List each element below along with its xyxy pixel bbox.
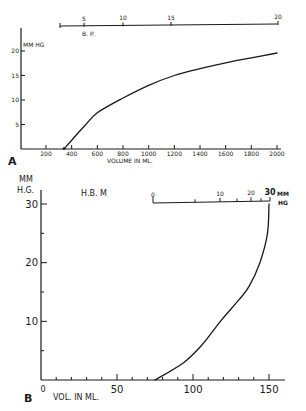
a-curve-start-point xyxy=(63,147,66,150)
a-x-tick-label: 1000 xyxy=(141,150,156,157)
b-x-axis-label: VOL. IN ML. xyxy=(53,393,99,402)
a-top-tick-label: 20 xyxy=(274,13,282,20)
a-x-axis-label: VOLUME IN ML. xyxy=(107,157,153,164)
a-x-tick-label: 1800 xyxy=(244,150,259,157)
a-pressure-volume-curve xyxy=(64,53,277,149)
b-inset-tick-label: 20 xyxy=(247,189,255,196)
chart-svg: 5101520 B. P. MM HG 5101520 200400600800… xyxy=(0,0,306,411)
a-y-tick-label: 15 xyxy=(11,72,19,79)
a-y-axis-label: MM HG xyxy=(23,41,45,48)
panel-b: MM H.G. H.B. M 102030 050100150 VOL. IN … xyxy=(17,175,289,405)
b-inset-scale-line xyxy=(153,201,270,203)
a-x-tick-label: 400 xyxy=(66,150,78,157)
a-y-tick-label: 10 xyxy=(11,96,19,103)
a-top-scale-label: B. P. xyxy=(82,30,95,37)
a-top-tick-label: 15 xyxy=(167,14,175,21)
a-top-tick-label: 5 xyxy=(82,15,86,22)
b-pressure-volume-curve xyxy=(155,204,269,380)
b-x-tick-label: 150 xyxy=(259,384,278,395)
b-inset-tick-label: 30 xyxy=(264,188,276,197)
b-y-axis-label-line2: H.G. xyxy=(17,186,34,195)
b-inset-unit-hg: HG xyxy=(278,199,288,206)
b-inset-scale: 0102030 MM HG xyxy=(151,188,289,206)
a-x-tick-label: 800 xyxy=(117,150,129,157)
a-top-scale: 5101520 B. P. xyxy=(60,13,282,37)
a-y-tick-label: 5 xyxy=(15,121,19,128)
a-x-tick-label: 600 xyxy=(92,150,104,157)
figure: 5101520 B. P. MM HG 5101520 200400600800… xyxy=(0,0,306,411)
b-x-tick-label: 0 xyxy=(40,385,45,394)
a-x-tick-label: 2000 xyxy=(269,150,284,157)
b-y-tick-label: 30 xyxy=(25,199,38,210)
b-x-tick-label: 100 xyxy=(183,384,202,395)
b-y-tick-label: 20 xyxy=(25,257,38,268)
a-x-tick-label: 200 xyxy=(40,150,52,157)
a-x-tick-label: 1200 xyxy=(167,150,182,157)
a-top-tick-label: 10 xyxy=(119,14,127,21)
b-y-axis-label-line1: MM xyxy=(19,175,33,184)
panel-a-label: A xyxy=(8,155,17,168)
b-y-tick-label: 10 xyxy=(25,316,38,327)
b-x-tick-label: 50 xyxy=(111,384,124,395)
a-x-tick-label: 1600 xyxy=(218,150,233,157)
b-inset-unit-mm: MM xyxy=(277,190,289,197)
panel-b-label: B xyxy=(24,392,32,405)
b-inset-tick-label: 0 xyxy=(151,191,155,198)
b-title: H.B. M xyxy=(81,189,107,198)
a-y-tick-label: 20 xyxy=(11,47,19,54)
panel-a: 5101520 B. P. MM HG 5101520 200400600800… xyxy=(8,13,285,168)
a-x-tick-label: 1400 xyxy=(192,150,207,157)
a-top-scale-line xyxy=(60,24,278,26)
b-inset-tick-label: 10 xyxy=(216,190,224,197)
